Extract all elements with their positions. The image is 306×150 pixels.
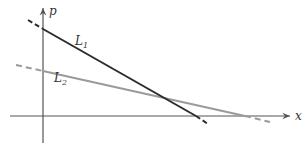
line-l2-dashed-right [245,116,270,122]
l1-label-main: L [74,34,83,48]
y-axis-label: p [49,4,57,18]
l1-label-sub: 1 [83,41,88,50]
graph-canvas: p x L1 L2 [0,0,306,150]
l2-label: L2 [53,71,67,87]
line-l2-dashed-left [16,65,43,71]
line-l1-dashed-left [28,20,43,29]
line-l2-solid [43,71,245,116]
l2-label-sub: 2 [61,78,67,87]
line-l1-solid [43,29,196,116]
line-l1-dashed-right [196,116,208,124]
x-axis-label: x [295,109,302,123]
l2-label-main: L [53,71,62,85]
l1-label: L1 [74,34,88,50]
